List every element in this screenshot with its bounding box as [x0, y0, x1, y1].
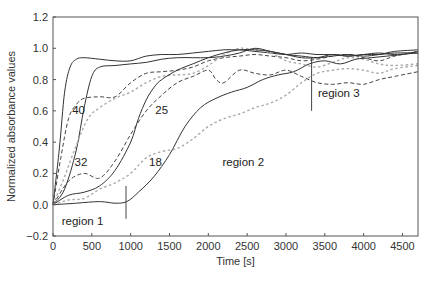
x-tick-label: 500	[83, 240, 101, 252]
x-tick-label: 4500	[390, 240, 414, 252]
x-tick-label: 3500	[313, 240, 337, 252]
y-tick-label: 0.0	[33, 199, 48, 211]
series-line	[53, 51, 418, 204]
series-line	[53, 51, 418, 204]
x-tick-label: 3000	[274, 240, 298, 252]
x-tick-label: 2500	[235, 240, 259, 252]
y-tick-label: 1.2	[33, 11, 48, 23]
annotation-label: region 3	[318, 87, 360, 99]
y-tick-label: −0.2	[26, 230, 48, 242]
y-tick-label: 0.2	[33, 167, 48, 179]
series-line	[53, 66, 418, 205]
y-tick-label: 0.6	[33, 105, 48, 117]
x-tick-label: 4000	[351, 240, 375, 252]
line-chart: 40322518region 1region 2region 3 0500100…	[0, 0, 436, 281]
x-tick-label: 2000	[196, 240, 220, 252]
annotation-label: 32	[75, 156, 88, 168]
annotation-label: 25	[155, 104, 168, 116]
annotation-label: 18	[149, 156, 162, 168]
x-axis-title: Time [s]	[216, 255, 255, 267]
series-line	[53, 70, 418, 205]
y-axis: −0.20.00.20.40.60.81.01.2	[26, 11, 56, 242]
curve-annotations: 40322518region 1region 2region 3	[62, 87, 360, 227]
y-tick-label: 0.4	[33, 136, 48, 148]
series-line	[53, 48, 418, 205]
y-tick-label: 1.0	[33, 42, 48, 54]
y-tick-label: 0.8	[33, 74, 48, 86]
annotation-label: region 1	[62, 215, 104, 227]
annotation-label: 40	[72, 104, 85, 116]
plot-series	[53, 48, 418, 205]
series-line	[53, 48, 418, 204]
x-tick-label: 0	[50, 240, 56, 252]
x-tick-label: 1000	[118, 240, 142, 252]
y-axis-title: Normalized absorbance values	[5, 50, 17, 202]
annotation-label: region 2	[222, 156, 264, 168]
x-tick-label: 1500	[157, 240, 181, 252]
